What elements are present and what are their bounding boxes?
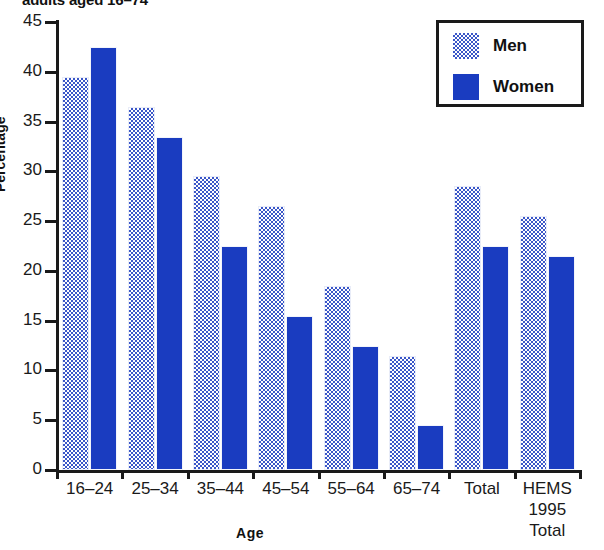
legend-swatch-women: [453, 74, 479, 100]
x-axis-title: Age: [170, 525, 330, 541]
x-tick-label-7: HEMS1995Total: [497, 478, 597, 541]
y-tick-label-10: 10: [0, 359, 42, 379]
bar-women-3: [286, 316, 313, 470]
bar-men-6: [454, 186, 481, 470]
x-tick-label-line: HEMS: [497, 478, 597, 499]
legend-swatch-men: [453, 33, 479, 59]
y-tick-label-40: 40: [0, 61, 42, 81]
chart-legend: MenWomen: [436, 20, 584, 107]
legend-label-men: Men: [493, 36, 527, 56]
bar-men-4: [324, 286, 351, 470]
bar-men-1: [128, 107, 155, 470]
x-tick-label-line: Total: [497, 520, 597, 541]
y-tick-label-25: 25: [0, 210, 42, 230]
y-tick-label-45: 45: [0, 11, 42, 31]
bar-women-7: [548, 256, 575, 470]
bar-women-5: [417, 425, 444, 470]
bar-men-2: [193, 176, 220, 470]
y-axis-title: Percentage: [0, 117, 8, 192]
y-tick-5: [45, 419, 56, 422]
chart-title: adults aged 16–74: [22, 0, 148, 8]
y-tick-label-5: 5: [0, 409, 42, 429]
y-tick-label-0: 0: [0, 459, 42, 479]
y-tick-label-15: 15: [0, 310, 42, 330]
y-tick-45: [45, 21, 56, 24]
bar-men-3: [258, 206, 285, 470]
y-tick-35: [45, 121, 56, 124]
bar-women-1: [156, 137, 183, 471]
y-tick-0: [45, 469, 56, 472]
legend-label-women: Women: [493, 77, 554, 97]
bar-women-4: [352, 346, 379, 470]
y-tick-label-20: 20: [0, 260, 42, 280]
y-tick-20: [45, 270, 56, 273]
bar-women-6: [482, 246, 509, 470]
bar-men-0: [62, 77, 89, 470]
y-tick-40: [45, 71, 56, 74]
bar-men-5: [389, 356, 416, 470]
x-tick-label-line: 1995: [497, 499, 597, 520]
bar-women-0: [90, 47, 117, 470]
bar-women-2: [221, 246, 248, 470]
y-tick-10: [45, 369, 56, 372]
y-tick-25: [45, 220, 56, 223]
bar-men-7: [520, 216, 547, 470]
y-tick-15: [45, 320, 56, 323]
y-tick-30: [45, 170, 56, 173]
